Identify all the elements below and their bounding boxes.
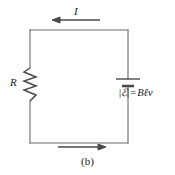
circuit-wires [30, 30, 128, 143]
emf-label: |ℰ|=Bℓv [119, 88, 153, 99]
resistor-zigzag [24, 68, 36, 101]
figure-caption: (b) [0, 155, 175, 167]
emf-value: Bℓv [137, 87, 152, 98]
resistance-label: R [10, 77, 17, 88]
top-arrow-head [52, 17, 60, 23]
bottom-current-arrow [58, 144, 106, 150]
top-current-arrow [52, 17, 100, 23]
battery-symbol [116, 79, 140, 86]
bottom-arrow-head [98, 144, 106, 150]
emf-equals-sign: = [129, 87, 137, 98]
current-label: I [74, 6, 78, 17]
resistor-symbol [24, 68, 36, 101]
circuit-figure: I R |ℰ|=Bℓv (b) [0, 0, 175, 175]
